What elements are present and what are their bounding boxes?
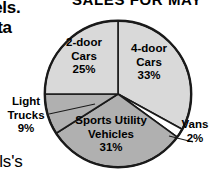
pie-label-sports-utility-vehicles-percent: 31% (68, 141, 154, 155)
pie-label-light-trucks: Light Trucks 9% (0, 95, 54, 136)
pie-label-light-trucks-percent: 9% (0, 122, 54, 136)
pie-label-vans-percent: 2% (172, 132, 218, 146)
pie-label-2-door-cars-percent: 25% (55, 63, 113, 77)
pie-label-light-trucks-line1: Light (0, 95, 54, 109)
pie-label-4-door-cars-line1: 4-door (121, 42, 177, 56)
chart-title: SALES FOR MAY (72, 0, 202, 8)
pie-label-2-door-cars-line1: 2-door (55, 36, 113, 50)
pie-label-4-door-cars-line2: Cars (121, 56, 177, 70)
page-text-fragment-top-left-second: ata (0, 18, 12, 38)
pie-label-sports-utility-vehicles-line2: Vehicles (68, 128, 154, 142)
pie-label-vans: Vans 2% (172, 118, 218, 145)
pie-label-2-door-cars: 2-door Cars 25% (55, 36, 113, 77)
page-text-fragment-bottom-left: els's (0, 152, 22, 172)
pie-label-sports-utility-vehicles-line1: Sports Utility (68, 114, 154, 128)
pie-label-4-door-cars: 4-door Cars 33% (121, 42, 177, 83)
pie-label-2-door-cars-line2: Cars (55, 50, 113, 64)
pie-label-vans-line1: Vans (172, 118, 218, 132)
pie-label-sports-utility-vehicles: Sports Utility Vehicles 31% (68, 114, 154, 155)
pie-label-light-trucks-line2: Trucks (0, 109, 54, 123)
page-text-fragment-top-left: eels. (0, 0, 20, 18)
chart-page: eels. ata SALES FOR MAY els's 2-door Car… (0, 0, 220, 180)
pie-label-4-door-cars-percent: 33% (121, 69, 177, 83)
